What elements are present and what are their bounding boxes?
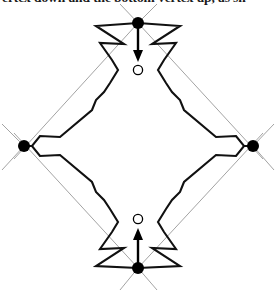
outline-upper-left-lobe xyxy=(24,23,138,146)
top-arrow-group xyxy=(133,25,143,62)
bottom-vertex-up-arrow-head xyxy=(133,228,143,240)
outline-lower-left-lobe xyxy=(24,146,138,268)
geometry-figure xyxy=(0,0,276,294)
target-circles-group xyxy=(133,65,142,223)
top-vertex-down-arrow-head xyxy=(133,50,143,62)
outline-lower-right-lobe xyxy=(138,146,253,268)
top-vertex-dot xyxy=(132,17,144,29)
top-target-circle xyxy=(133,65,142,74)
figure-page: ertex down and the bottom vertex up, as … xyxy=(0,0,276,294)
outline-upper-right-lobe xyxy=(138,23,253,146)
left-vertex-dot xyxy=(18,140,30,152)
bottom-target-circle xyxy=(133,214,142,223)
right-vertex-dot xyxy=(247,140,259,152)
bottom-arrow-group xyxy=(133,228,143,266)
bottom-vertex-dot xyxy=(132,262,144,274)
